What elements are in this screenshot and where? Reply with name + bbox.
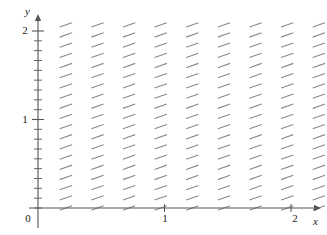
slope-segment [155, 94, 167, 98]
slope-segment [123, 74, 135, 78]
slope-segment [60, 23, 72, 27]
slope-segment [186, 94, 198, 98]
slope-segment [186, 175, 198, 179]
slope-segment [91, 186, 103, 190]
slope-segment [186, 104, 198, 108]
slope-segment [123, 23, 135, 27]
slope-segment [249, 196, 261, 200]
slope-segment [123, 43, 135, 47]
slope-segment [186, 84, 198, 88]
slope-segment [186, 23, 198, 27]
slope-segment [60, 175, 72, 179]
slope-segment [249, 165, 261, 169]
slope-segment [313, 155, 325, 159]
slope-segment [155, 165, 167, 169]
slope-segment [281, 43, 293, 47]
slope-segment [60, 74, 72, 78]
slope-segment [218, 53, 230, 57]
slope-segment [91, 84, 103, 88]
slope-segment [186, 135, 198, 139]
axes-group [29, 14, 321, 228]
slope-segment [313, 135, 325, 139]
slope-segment [218, 165, 230, 169]
slope-segment [218, 23, 230, 27]
slope-segment [281, 104, 293, 108]
slope-segment [155, 33, 167, 37]
slope-segment [218, 175, 230, 179]
y-tick-label-1: 1 [19, 114, 31, 125]
slope-segment [91, 23, 103, 27]
slope-segment [60, 104, 72, 108]
slope-segment [60, 63, 72, 67]
slope-segment [155, 155, 167, 159]
slope-segment [281, 114, 293, 118]
slope-segment [91, 53, 103, 57]
slope-segment [313, 145, 325, 149]
slope-segment [281, 186, 293, 190]
y-axis-label: y [25, 6, 30, 17]
slope-segment [186, 186, 198, 190]
slope-segment [313, 84, 325, 88]
slope-segment [249, 186, 261, 190]
slope-segment [218, 186, 230, 190]
slope-segment [123, 165, 135, 169]
slope-segment [123, 84, 135, 88]
slope-segment [281, 196, 293, 200]
slope-segment [186, 63, 198, 67]
y-axis-arrowhead [35, 14, 41, 21]
x-tick-label-2: 2 [289, 213, 301, 224]
slope-segment [155, 53, 167, 57]
slope-segment [249, 124, 261, 128]
slope-segment [91, 196, 103, 200]
slope-segment [123, 114, 135, 118]
slope-segment [60, 53, 72, 57]
slope-segment [313, 63, 325, 67]
x-axis-label: x [313, 216, 318, 227]
slope-segment [155, 145, 167, 149]
slope-segment [186, 74, 198, 78]
slope-segment [91, 33, 103, 37]
slope-segment [60, 165, 72, 169]
slope-segment [281, 94, 293, 98]
slope-segment [218, 155, 230, 159]
slope-segment [313, 114, 325, 118]
slope-segment [123, 135, 135, 139]
slope-segment [249, 43, 261, 47]
slope-segment [91, 104, 103, 108]
slope-segment [249, 175, 261, 179]
slope-segment [218, 135, 230, 139]
slope-segment [123, 53, 135, 57]
slope-segment [249, 114, 261, 118]
slope-segment [313, 175, 325, 179]
slope-segment [60, 186, 72, 190]
slope-segment [313, 33, 325, 37]
slope-segment [186, 145, 198, 149]
slope-segment [123, 196, 135, 200]
slope-segment [281, 53, 293, 57]
slope-segment [249, 94, 261, 98]
slope-segment [249, 33, 261, 37]
x-axis-arrowhead [314, 205, 321, 211]
slope-segment [155, 196, 167, 200]
slope-segment [155, 114, 167, 118]
slope-segment [155, 135, 167, 139]
slope-segment [218, 63, 230, 67]
slope-segment [313, 53, 325, 57]
slope-segment [249, 145, 261, 149]
slope-segment [281, 165, 293, 169]
slope-segment [155, 23, 167, 27]
slope-segment [60, 155, 72, 159]
slope-segment [313, 43, 325, 47]
slope-segment [123, 63, 135, 67]
slope-segment [60, 94, 72, 98]
slope-segment [218, 104, 230, 108]
slope-segment [249, 74, 261, 78]
slope-segment [218, 114, 230, 118]
slope-segment-group [60, 23, 325, 210]
slope-segment [123, 145, 135, 149]
slope-segment [218, 43, 230, 47]
slope-segment [60, 33, 72, 37]
slope-segment [155, 175, 167, 179]
slope-segment [218, 124, 230, 128]
slope-segment [186, 196, 198, 200]
